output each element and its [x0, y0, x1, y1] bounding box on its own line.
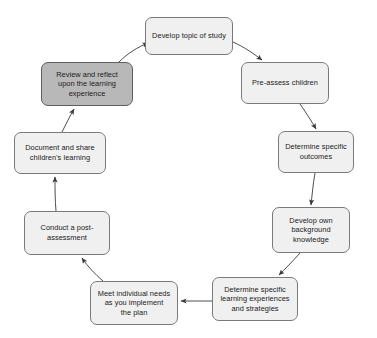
edge-post-assessment-to-document-share: [55, 177, 56, 211]
edge-pre-assess-to-determine-outcomes: [300, 104, 316, 129]
node-label: Develop topic of study: [152, 31, 226, 41]
node-review-reflect[interactable]: Review and reflect upon the learning exp…: [41, 62, 133, 106]
node-label: Pre-assess children: [252, 78, 318, 88]
node-meet-needs[interactable]: Meet individual needs as you implement t…: [90, 281, 178, 325]
edge-meet-needs-to-post-assessment: [82, 258, 103, 281]
node-develop-background[interactable]: Develop own background knowledge: [272, 207, 350, 253]
node-label: Conduct a post- assessment: [41, 223, 94, 242]
node-label: Determine specific learning experiences …: [220, 285, 289, 314]
node-determine-experiences[interactable]: Determine specific learning experiences …: [212, 277, 298, 321]
edge-review-reflect-to-develop-topic: [119, 43, 148, 62]
node-post-assessment[interactable]: Conduct a post- assessment: [24, 211, 110, 255]
diagram-canvas: Develop topic of study Pre-assess childr…: [0, 0, 377, 338]
node-develop-topic[interactable]: Develop topic of study: [145, 17, 233, 55]
node-pre-assess[interactable]: Pre-assess children: [241, 62, 329, 104]
node-determine-outcomes[interactable]: Determine specific outcomes: [278, 131, 354, 173]
node-label: Meet individual needs as you implement t…: [98, 289, 171, 318]
node-label: Determine specific outcomes: [285, 142, 347, 161]
node-document-share[interactable]: Document and share children's learning: [14, 132, 106, 174]
edge-determine-outcomes-to-develop-background: [311, 173, 315, 205]
node-label: Review and reflect upon the learning exp…: [56, 70, 118, 99]
edge-develop-topic-to-pre-assess: [233, 42, 262, 60]
edge-document-share-to-review-reflect: [62, 109, 74, 132]
edge-develop-background-to-determine-experiences: [279, 253, 300, 275]
node-label: Document and share children's learning: [25, 143, 95, 162]
node-label: Develop own background knowledge: [289, 216, 332, 245]
